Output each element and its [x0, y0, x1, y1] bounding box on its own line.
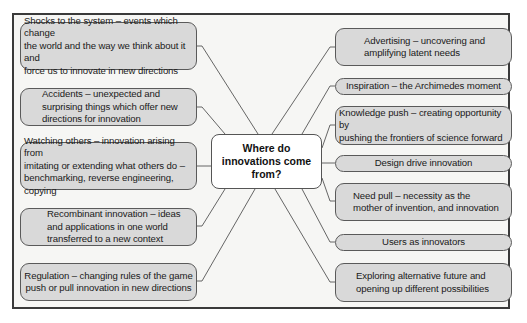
source-box-watching-others: Watching others – innovation arising fro… [20, 142, 197, 190]
source-box-advertising: Advertising – uncovering and amplifying … [335, 28, 512, 66]
source-text-line: Advertising – uncovering and [364, 35, 511, 48]
source-text-line: force us to innovate in new directions [24, 65, 196, 78]
source-text-line: benchmarking, reverse engineering, copyi… [24, 172, 196, 197]
source-text-line: the world and the way we think about it … [24, 40, 196, 65]
connector-recombinant [197, 189, 225, 226]
center-line: from? [222, 168, 311, 181]
connector-inspiration [302, 86, 335, 134]
source-text-line: and applications in one world [47, 221, 196, 234]
source-box-users: Users as innovators [335, 234, 512, 251]
source-text-line: transferred to a new context [47, 233, 196, 246]
source-box-exploring: Exploring alternative future and opening… [335, 263, 512, 302]
source-text-line: push or pull innovation in new direction… [21, 282, 196, 295]
source-box-recombinant: Recombinant innovation – ideas and appli… [20, 208, 197, 246]
source-box-inspiration: Inspiration – the Archimedes moment [335, 78, 512, 95]
source-text-line: opening up different possibilities [356, 283, 511, 296]
connector-knowledge-push [322, 125, 335, 148]
central-question: Where do innovations come from? [211, 134, 322, 189]
source-text-line: Accidents – unexpected and [42, 88, 196, 101]
connector-users [302, 189, 335, 242]
source-text-line: Shocks to the system – events which chan… [24, 15, 196, 40]
source-box-accidents: Accidents – unexpected and surprising th… [20, 88, 197, 126]
source-text-line: Exploring alternative future and [356, 270, 511, 283]
source-text-line: Inspiration – the Archimedes moment [336, 80, 511, 93]
source-text-line: Need pull – necessity as the [353, 190, 511, 203]
connector-shocks [197, 46, 258, 134]
source-box-shocks: Shocks to the system – events which chan… [20, 22, 197, 70]
source-text-line: pushing the frontiers of science forward [339, 132, 511, 145]
source-text-line: Recombinant innovation – ideas [47, 208, 196, 221]
source-text-line: Knowledge push – creating opportunity by [339, 107, 511, 132]
source-box-need-pull: Need pull – necessity as the mother of i… [335, 183, 512, 221]
source-text-line: Design drive innovation [336, 157, 511, 170]
source-text-line: Regulation – changing rules of the game [21, 270, 196, 283]
source-text-line: amplifying latent needs [364, 47, 511, 60]
connector-accidents [197, 107, 225, 134]
connector-advertising [272, 47, 335, 134]
source-text-line: directions for innovation [42, 113, 196, 126]
center-line: innovations come [222, 155, 311, 168]
connector-need-pull [322, 178, 335, 201]
connector-exploring [275, 189, 335, 282]
source-text-line: imitating or extending what others do – [24, 160, 196, 173]
source-box-knowledge-push: Knowledge push – creating opportunity by… [335, 106, 512, 145]
connector-regulation [197, 189, 255, 281]
source-text-line: mother of invention, and innovation [353, 202, 511, 215]
source-text-line: surprising things which offer new [42, 101, 196, 114]
source-box-regulation: Regulation – changing rules of the game … [20, 263, 197, 301]
source-box-design-drive: Design drive innovation [335, 155, 512, 172]
source-text-line: Watching others – innovation arising fro… [24, 135, 196, 160]
source-text-line: Users as innovators [336, 236, 511, 249]
center-line: Where do [222, 142, 311, 155]
